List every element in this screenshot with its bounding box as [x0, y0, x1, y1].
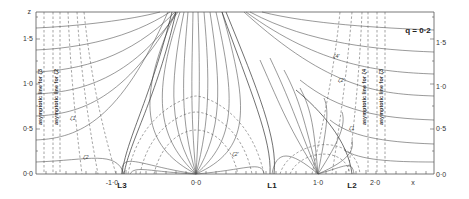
y-axis-ticks [36, 17, 434, 151]
lagrange-point-l1: L1 [267, 181, 277, 190]
y-tick-label-right: 1·5 [436, 39, 446, 46]
y-tick-label: 1·5 [23, 35, 33, 42]
curve-label: ζ1 [349, 125, 355, 132]
curve-label: ζ1 [70, 115, 76, 122]
y-tick-label: 0·5 [23, 125, 33, 132]
asymptote-label-left-outer: asymptotic line for ζ3 [37, 69, 44, 125]
secondary-star-field-lines [222, 12, 354, 174]
x-tick-label: 0·0 [191, 179, 201, 186]
y-tick-label-right: 1·0 [436, 83, 446, 90]
roche-equipotential-diagram: z 1·5 1·0 0·5 0·0 1·5 1·0 0·5 0·0 -1·0 0… [0, 0, 469, 199]
asymptotic-lines [44, 12, 385, 174]
parameter-label: q = 0·2 [405, 26, 431, 35]
x-tick-label: 1·0 [313, 179, 323, 186]
x-axis-ticks [46, 170, 426, 174]
y-tick-label: 1·0 [23, 80, 33, 87]
primary-star-field-lines [122, 12, 264, 174]
asymptote-label-right-inner: asymptotic line for ζ4 [361, 68, 368, 125]
x-tick-label: 2·0 [370, 179, 380, 186]
x-axis-label: x [411, 179, 415, 186]
y-tick-label: 0·0 [23, 170, 33, 177]
asymptote-label-right-outer: asymptotic line for ζ3 [378, 69, 385, 125]
y-tick-label-right: 0·5 [436, 125, 446, 132]
y-axis-label: z [28, 8, 32, 15]
zeta-dashed-curves [68, 12, 362, 174]
curve-label: ζ4' [333, 53, 341, 60]
asymptote-label-left-inner: asymptotic line for ζ2 [53, 69, 60, 125]
lagrange-point-l3: L3 [117, 181, 127, 190]
y-tick-label-right: 0·0 [436, 171, 446, 178]
curve-label: ζ2 [83, 154, 89, 161]
curve-label: ζ2' [232, 151, 240, 158]
curve-label: ζ2' [338, 77, 346, 84]
lagrange-point-l2: L2 [347, 181, 357, 190]
